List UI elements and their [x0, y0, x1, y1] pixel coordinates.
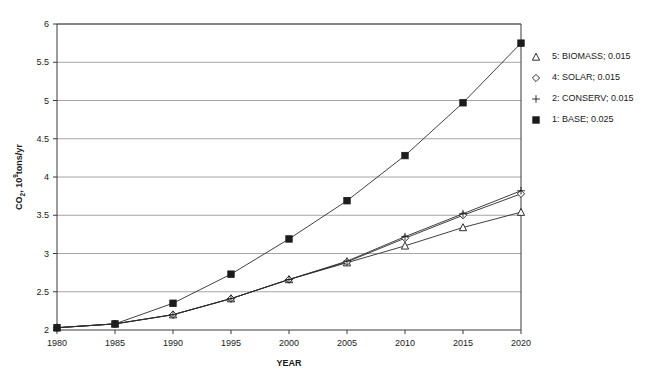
x-ticks: 198019851990199520002005201020152020	[47, 330, 531, 348]
x-tick-label: 2015	[453, 338, 473, 348]
co2-emissions-line-chart: 22.533.544.555.5619801985199019952000200…	[0, 0, 655, 380]
y-tick-label: 5.5	[36, 57, 49, 67]
legend-label: 4: SOLAR; 0.015	[552, 72, 620, 82]
x-axis-title: YEAR	[276, 358, 302, 368]
marker-square-filled	[54, 325, 60, 331]
marker-diamond	[532, 74, 539, 81]
series-polyline	[57, 212, 521, 328]
y-tick-label: 4	[44, 172, 49, 182]
x-tick-label: 1980	[47, 338, 67, 348]
legend-label: 5: BIOMASS; 0.015	[552, 51, 631, 61]
y-tick-label: 6	[44, 19, 49, 29]
series-square-filled	[54, 40, 524, 331]
marker-square-filled	[460, 100, 466, 106]
y-tick-label: 5	[44, 96, 49, 106]
y-tick-label: 3.5	[36, 210, 49, 220]
x-tick-label: 2000	[279, 338, 299, 348]
marker-square-filled	[518, 40, 524, 46]
series-polyline	[57, 191, 521, 328]
marker-square-filled	[344, 198, 350, 204]
series-group	[53, 40, 525, 332]
x-tick-label: 2020	[511, 338, 531, 348]
x-tick-label: 2005	[337, 338, 357, 348]
y-tick-label: 4.5	[36, 134, 49, 144]
x-tick-label: 1985	[105, 338, 125, 348]
y-tick-label: 2	[44, 325, 49, 335]
marker-triangle	[517, 208, 524, 215]
marker-triangle	[532, 53, 539, 60]
x-tick-label: 1995	[221, 338, 241, 348]
legend-item[interactable]: 5: BIOMASS; 0.015	[532, 51, 630, 61]
series-polyline	[57, 194, 521, 328]
marker-square-filled	[402, 152, 408, 158]
marker-square-filled	[228, 271, 234, 277]
series-plus	[53, 187, 525, 332]
marker-triangle	[401, 242, 408, 249]
y-tick-label: 3	[44, 249, 49, 259]
legend-label: 2: CONSERV; 0.015	[552, 93, 634, 103]
legend-item[interactable]: 4: SOLAR; 0.015	[532, 72, 620, 82]
x-tick-label: 2010	[395, 338, 415, 348]
x-tick-label: 1990	[163, 338, 183, 348]
y-tick-label: 2.5	[36, 287, 49, 297]
marker-square-filled	[170, 300, 176, 306]
legend-item[interactable]: 1: BASE; 0.025	[533, 114, 614, 124]
series-triangle	[53, 208, 524, 331]
marker-square-filled	[112, 321, 118, 327]
marker-square-filled	[286, 236, 292, 242]
y-gridlines: 22.533.544.555.56	[36, 19, 521, 335]
marker-square-filled	[533, 117, 539, 123]
chart-canvas: 22.533.544.555.5619801985199019952000200…	[0, 0, 655, 380]
legend-item[interactable]: 2: CONSERV; 0.015	[532, 93, 633, 103]
series-diamond	[53, 190, 524, 331]
y-axis-title-text: CO2, 109tons/yr	[12, 144, 26, 210]
legend-label: 1: BASE; 0.025	[552, 114, 614, 124]
y-axis-title: CO2, 109tons/yr	[12, 144, 26, 210]
chart-legend: 5: BIOMASS; 0.0154: SOLAR; 0.0152: CONSE…	[532, 51, 633, 124]
series-polyline	[57, 43, 521, 328]
